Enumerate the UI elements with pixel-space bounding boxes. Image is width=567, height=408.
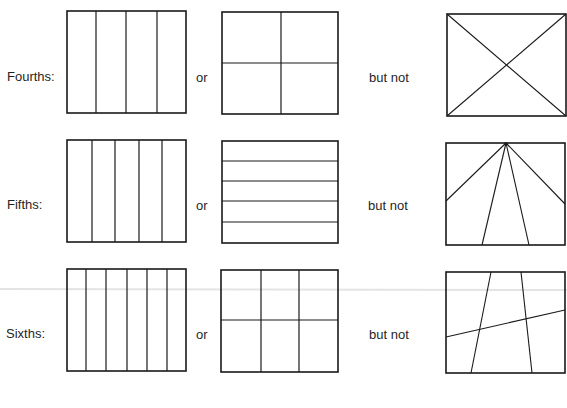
unequal-partition-line [506,143,565,204]
scan-artifact-line [0,289,567,290]
equal-partition-rectangle-fifths-2 [222,141,338,243]
connector-or-fourths: or [196,70,208,86]
equal-partition-rectangle-fifths-1 [67,140,186,242]
row-label-fifths: Fifths: [7,197,42,213]
unequal-partition-line [521,272,532,373]
apex-point [504,142,508,146]
connector-or-fifths: or [196,198,208,214]
row-label-fourths: Fourths: [7,69,55,85]
unequal-partition-line [506,143,529,245]
unequal-partition-line [471,272,491,373]
contrast-but-not-fourths: but not [369,70,409,86]
contrast-but-not-fifths: but not [368,198,408,214]
unequal-partition-line [446,310,565,337]
equal-partition-rectangle-sixths-2 [221,270,338,372]
unequal-partition-line [482,143,506,245]
unequal-partition-rectangle-fifths [446,143,565,245]
unequal-partition-line [446,143,506,201]
partitioned-rectangles-figure [0,0,567,408]
connector-or-sixths: or [196,327,208,343]
row-label-sixths: Sixths: [6,326,45,342]
contrast-but-not-sixths: but not [369,327,409,343]
unequal-partition-rectangle-sixths [446,272,565,373]
